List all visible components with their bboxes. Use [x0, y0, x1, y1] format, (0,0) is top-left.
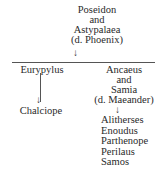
root-parentage: (d. Phoenix) [62, 35, 132, 45]
sibling-connector-line [12, 62, 155, 63]
child-ancaeus-samia: Ancaeus and Samia (d. Maeander) [86, 65, 162, 105]
arrow-down-icon: ↓ [36, 95, 41, 105]
descendant-chalciope: Chalciope [8, 106, 74, 116]
child-parentage: (d. Maeander) [86, 95, 162, 105]
child-eurypylus-name: Eurypylus [12, 65, 72, 75]
descendant-item: Parthenope [101, 136, 148, 147]
descendant-item: Samos [101, 157, 148, 168]
descendant-chalciope-name: Chalciope [8, 106, 74, 116]
arrow-down-icon: ↓ [73, 48, 78, 58]
child-eurypylus: Eurypylus [12, 65, 72, 75]
root-couple: Poseidon and Astypalaea (d. Phoenix) [62, 5, 132, 45]
descendants-list: Alitherses Enoudus Parthenope Perilaus S… [101, 115, 148, 168]
descendant-item: Alitherses [101, 115, 148, 126]
